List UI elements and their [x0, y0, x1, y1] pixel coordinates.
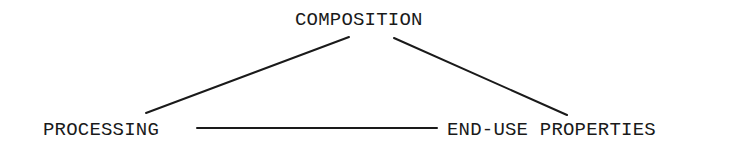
- node-composition: COMPOSITION: [295, 11, 423, 30]
- edge-composition-processing: [146, 37, 349, 113]
- diagram-canvas: COMPOSITION PROCESSING END-USE PROPERTIE…: [0, 0, 732, 150]
- edge-composition-end-use-properties: [394, 38, 567, 115]
- node-end-use-properties: END-USE PROPERTIES: [447, 121, 656, 140]
- node-processing: PROCESSING: [43, 121, 159, 140]
